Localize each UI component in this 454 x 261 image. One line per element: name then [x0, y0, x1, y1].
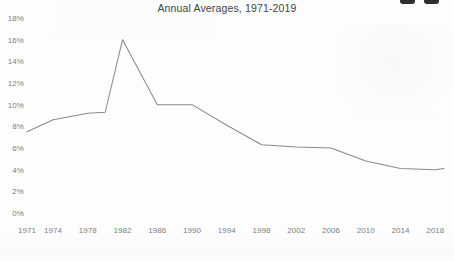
series-line-annual-average	[27, 40, 444, 170]
line-chart-plot	[0, 0, 454, 261]
chart-container: Annual Averages, 1971-2019 0%2%4%6%8%10%…	[0, 0, 454, 261]
